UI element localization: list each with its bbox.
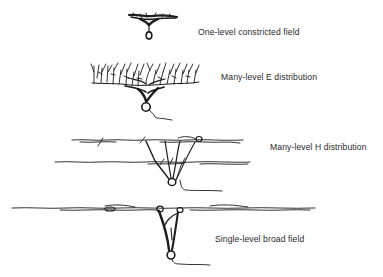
label-many-level-e-distribution: Many-level E distribution [221, 72, 317, 82]
neuron-drawings [0, 0, 383, 277]
dendritic-field-figure: One-level constricted field Many-level E… [0, 0, 383, 277]
label-one-level-constricted-field: One-level constricted field [198, 27, 300, 37]
label-single-level-broad-field: Single-level broad field [215, 234, 304, 244]
neuron-many-level-h [55, 137, 250, 192]
label-many-level-h-distribution: Many-level H distribution [270, 142, 367, 152]
neuron-one-level-constricted [129, 13, 177, 39]
neuron-many-level-e [91, 63, 199, 120]
